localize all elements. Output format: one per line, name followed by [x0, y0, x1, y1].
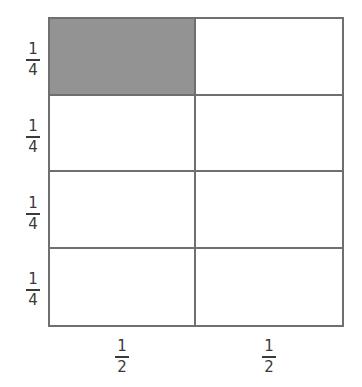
- denominator: 4: [28, 217, 38, 232]
- row-label-2: 1 4: [23, 119, 43, 155]
- numerator: 1: [264, 339, 274, 354]
- cell-r2-c2: [196, 96, 342, 173]
- denominator: 2: [264, 360, 274, 375]
- row-label-4: 1 4: [23, 272, 43, 308]
- cell-r4-c1: [50, 249, 196, 326]
- cell-r2-c1: [50, 96, 196, 173]
- numerator: 1: [28, 272, 38, 287]
- row-label-1: 1 4: [23, 42, 43, 78]
- denominator: 4: [28, 140, 38, 155]
- cell-r4-c2: [196, 249, 342, 326]
- fraction-grid: [48, 17, 344, 327]
- numerator: 1: [28, 196, 38, 211]
- denominator: 2: [117, 360, 127, 375]
- column-label-1: 1 2: [112, 339, 132, 375]
- column-label-2: 1 2: [259, 339, 279, 375]
- denominator: 4: [28, 63, 38, 78]
- numerator: 1: [28, 42, 38, 57]
- denominator: 4: [28, 293, 38, 308]
- numerator: 1: [117, 339, 127, 354]
- numerator: 1: [28, 119, 38, 134]
- cell-r3-c1: [50, 172, 196, 249]
- cell-r1-c2: [196, 19, 342, 96]
- cell-r1-c1-shaded: [50, 19, 196, 96]
- cell-r3-c2: [196, 172, 342, 249]
- row-label-3: 1 4: [23, 196, 43, 232]
